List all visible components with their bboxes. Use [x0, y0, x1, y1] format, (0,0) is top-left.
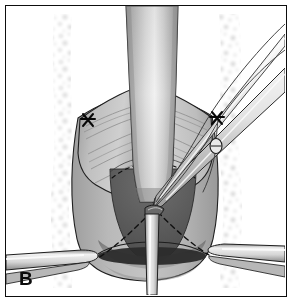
- panel-label: B: [19, 269, 33, 288]
- suture-knot-bead: [210, 139, 222, 154]
- figure-frame: B: [5, 5, 287, 297]
- surgical-illustration: [6, 6, 285, 295]
- figure-root: B: [0, 0, 292, 302]
- central-vertical-probe: [145, 214, 159, 295]
- lower-right-retractor: [208, 244, 285, 277]
- central-vertical-column: [126, 6, 178, 202]
